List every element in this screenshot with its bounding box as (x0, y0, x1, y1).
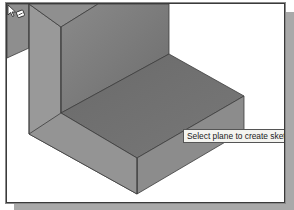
window-drop-shadow-right (284, 12, 294, 210)
tooltip-text: Select plane to create sketch or (187, 131, 285, 141)
3d-graphics-viewport[interactable]: Select plane to create sketch or (6, 3, 285, 203)
3d-model[interactable] (7, 4, 284, 202)
select-pointer-with-sketch-icon (7, 4, 27, 20)
window-drop-shadow-bottom (14, 202, 294, 210)
tooltip: Select plane to create sketch or (183, 129, 285, 143)
